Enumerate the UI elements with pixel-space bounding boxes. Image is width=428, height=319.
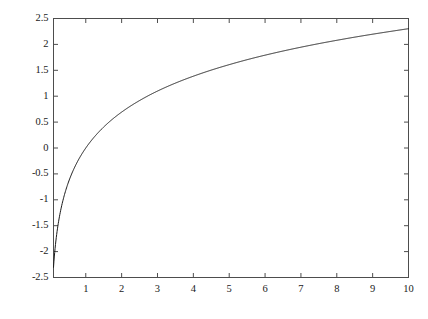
x-tick-label: 9: [353, 284, 393, 295]
y-tick-label: -0.5: [32, 168, 49, 179]
figure-background: [0, 0, 428, 319]
plot-area: [0, 0, 428, 319]
figure-canvas: -2.5-2-1.5-1-0.500.511.522.5 12345678910: [0, 0, 428, 319]
x-tick-label: 2: [102, 284, 142, 295]
x-tick-label: 7: [281, 284, 321, 295]
y-tick-label: -2.5: [32, 272, 49, 283]
x-tick-label: 6: [245, 284, 285, 295]
x-tick-label: 8: [317, 284, 357, 295]
y-tick-label: 1.5: [35, 65, 48, 76]
y-tick-label: 2.5: [35, 13, 48, 24]
y-tick-label: 0: [43, 143, 48, 154]
y-tick-label: -2: [40, 246, 49, 257]
x-tick-label: 5: [209, 284, 249, 295]
y-tick-label: 1: [43, 91, 48, 102]
y-tick-label: -1.5: [32, 220, 49, 231]
y-tick-label: -1: [40, 194, 49, 205]
x-tick-label: 1: [66, 284, 106, 295]
y-tick-label: 0.5: [35, 117, 48, 128]
x-tick-label: 3: [137, 284, 177, 295]
x-tick-label: 4: [173, 284, 213, 295]
y-tick-label: 2: [43, 39, 48, 50]
x-tick-label: 10: [389, 284, 428, 295]
